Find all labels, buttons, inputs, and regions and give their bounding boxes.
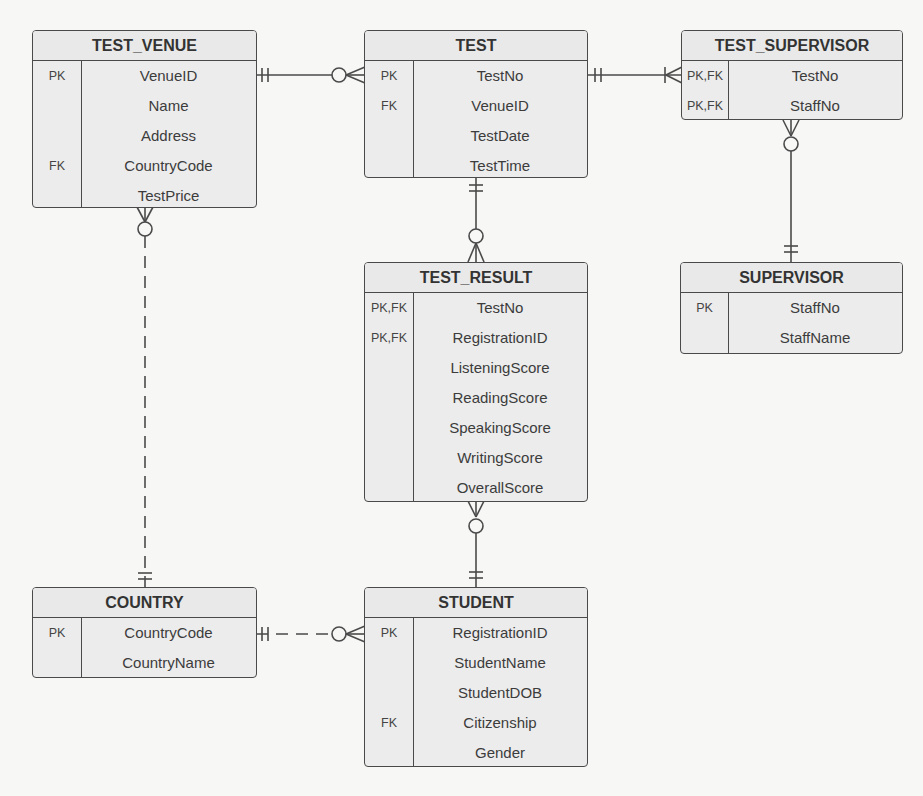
crowfoot-icon <box>346 67 365 75</box>
attribute-name: StaffNo <box>728 91 902 120</box>
crowfoot-icon <box>783 120 791 136</box>
attribute-name: TestDate <box>413 121 587 151</box>
key-label: PK,FK <box>682 91 728 120</box>
relationship-venue-test <box>256 67 365 83</box>
attribute-row: PKRegistrationID <box>365 618 587 648</box>
attribute-name: OverallScore <box>413 473 587 502</box>
attribute-row: PK,FKTestNo <box>365 293 587 323</box>
attribute-name: Citizenship <box>413 708 587 738</box>
key-label: PK,FK <box>682 61 728 91</box>
attribute-name: StudentDOB <box>413 678 587 708</box>
key-label: PK <box>33 618 81 648</box>
entity-country[interactable]: COUNTRY PKCountryCode CountryName <box>32 587 257 678</box>
crowfoot-icon <box>666 67 682 75</box>
relationship-student-testresult <box>468 501 484 588</box>
entity-title: TEST <box>365 31 587 61</box>
attribute-name: CountryCode <box>81 151 256 181</box>
attribute-row: PK,FKTestNo <box>682 61 902 91</box>
relationship-supervisor-testsupervisor <box>783 120 799 262</box>
attribute-row: PK,FKStaffNo <box>682 91 902 120</box>
attribute-row: TestPrice <box>33 181 256 208</box>
attribute-name: TestNo <box>728 61 902 91</box>
key-label: PK <box>681 293 728 323</box>
attribute-name: VenueID <box>413 91 587 121</box>
attribute-row: PKTestNo <box>365 61 587 91</box>
attribute-row: PK,FKRegistrationID <box>365 323 587 353</box>
attribute-row: PKVenueID <box>33 61 256 91</box>
crowfoot-icon <box>137 207 145 222</box>
zero-circle-icon <box>469 229 483 243</box>
entity-test-result[interactable]: TEST_RESULT PK,FKTestNo PK,FKRegistratio… <box>364 262 588 502</box>
entity-title: SUPERVISOR <box>681 263 902 293</box>
attribute-row: WritingScore <box>365 443 587 473</box>
entity-student[interactable]: STUDENT PKRegistrationID StudentName Stu… <box>364 587 588 767</box>
attribute-name: ListeningScore <box>413 353 587 383</box>
entity-title: TEST_RESULT <box>365 263 587 293</box>
attribute-name: StudentName <box>413 648 587 678</box>
entity-test[interactable]: TEST PKTestNo FKVenueID TestDate TestTim… <box>364 30 588 178</box>
attribute-row: Gender <box>365 738 587 767</box>
relationship-country-testvenue <box>137 207 153 588</box>
key-label: PK <box>365 61 413 91</box>
attribute-row: FKCitizenship <box>365 708 587 738</box>
attribute-name: TestPrice <box>81 181 256 208</box>
attribute-row: Address <box>33 121 256 151</box>
attribute-row: StudentDOB <box>365 678 587 708</box>
attribute-name: TestNo <box>413 61 587 91</box>
entity-test-venue[interactable]: TEST_VENUE PKVenueID Name Address FKCoun… <box>32 30 257 208</box>
key-label: PK <box>33 61 81 91</box>
entity-supervisor[interactable]: SUPERVISOR PKStaffNo StaffName <box>680 262 903 354</box>
attribute-row: SpeakingScore <box>365 413 587 443</box>
crowfoot-icon <box>468 243 476 262</box>
zero-circle-icon <box>332 68 346 82</box>
entity-title: COUNTRY <box>33 588 256 618</box>
attribute-row: CountryName <box>33 648 256 678</box>
key-label: PK,FK <box>365 293 413 323</box>
attribute-row: TestTime <box>365 151 587 178</box>
key-label: FK <box>33 151 81 181</box>
attribute-row: Name <box>33 91 256 121</box>
attribute-name: TestNo <box>413 293 587 323</box>
attribute-name: RegistrationID <box>413 323 587 353</box>
attribute-row: ListeningScore <box>365 353 587 383</box>
attribute-name: VenueID <box>81 61 256 91</box>
crowfoot-icon <box>468 501 476 517</box>
attribute-name: SpeakingScore <box>413 413 587 443</box>
entity-title: STUDENT <box>365 588 587 618</box>
key-label: FK <box>365 708 413 738</box>
attribute-row: PKStaffNo <box>681 293 902 323</box>
attribute-name: CountryCode <box>81 618 256 648</box>
attribute-name: StaffNo <box>728 293 902 323</box>
zero-circle-icon <box>784 137 798 151</box>
zero-circle-icon <box>469 519 483 533</box>
zero-circle-icon <box>332 627 346 641</box>
key-label: PK,FK <box>365 323 413 353</box>
entity-title: TEST_SUPERVISOR <box>682 31 902 61</box>
attribute-name: ReadingScore <box>413 383 587 413</box>
attribute-name: Gender <box>413 738 587 767</box>
attribute-row: PKCountryCode <box>33 618 256 648</box>
attribute-name: RegistrationID <box>413 618 587 648</box>
attribute-name: TestTime <box>413 151 587 178</box>
entity-test-supervisor[interactable]: TEST_SUPERVISOR PK,FKTestNo PK,FKStaffNo <box>681 30 903 120</box>
attribute-name: CountryName <box>81 648 256 678</box>
relationship-test-testresult <box>468 178 484 262</box>
key-label: PK <box>365 618 413 648</box>
attribute-name: WritingScore <box>413 443 587 473</box>
crowfoot-icon <box>346 626 365 634</box>
relationship-test-testsupervisor <box>588 67 682 83</box>
attribute-row: TestDate <box>365 121 587 151</box>
zero-circle-icon <box>138 222 152 236</box>
attribute-name: Name <box>81 91 256 121</box>
entity-title: TEST_VENUE <box>33 31 256 61</box>
attribute-row: ReadingScore <box>365 383 587 413</box>
attribute-name: Address <box>81 121 256 151</box>
attribute-name: StaffName <box>728 323 902 353</box>
key-label: FK <box>365 91 413 121</box>
attribute-row: FKVenueID <box>365 91 587 121</box>
attribute-row: FKCountryCode <box>33 151 256 181</box>
er-diagram-canvas: TEST_VENUE PKVenueID Name Address FKCoun… <box>0 0 923 796</box>
attribute-row: OverallScore <box>365 473 587 502</box>
attribute-row: StaffName <box>681 323 902 353</box>
relationship-country-student <box>256 626 365 642</box>
